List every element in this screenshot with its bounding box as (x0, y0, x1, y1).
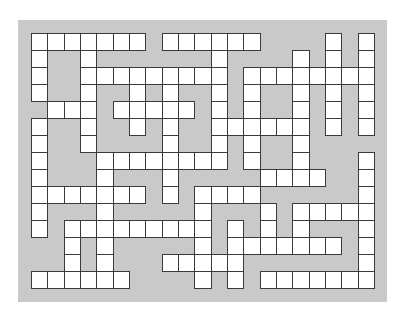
crossword-cell[interactable] (64, 186, 81, 204)
crossword-cell[interactable] (96, 254, 114, 272)
crossword-cell[interactable] (211, 33, 228, 51)
crossword-cell[interactable] (162, 135, 179, 153)
crossword-cell[interactable] (325, 84, 342, 102)
crossword-cell[interactable] (162, 118, 179, 136)
crossword-cell[interactable] (260, 67, 277, 85)
crossword-cell[interactable] (260, 118, 277, 136)
crossword-cell[interactable] (31, 118, 48, 136)
crossword-cell[interactable] (358, 186, 375, 204)
crossword-cell[interactable] (145, 152, 163, 170)
crossword-cell[interactable] (129, 152, 146, 170)
crossword-cell[interactable] (325, 67, 342, 85)
crossword-cell[interactable] (358, 118, 375, 136)
crossword-cell[interactable] (292, 169, 310, 187)
crossword-cell[interactable] (325, 271, 342, 289)
crossword-cell[interactable] (80, 271, 97, 289)
crossword-cell[interactable] (276, 271, 293, 289)
crossword-cell[interactable] (178, 220, 195, 238)
crossword-cell[interactable] (358, 271, 375, 289)
crossword-cell[interactable] (80, 67, 97, 85)
crossword-cell[interactable] (31, 220, 48, 238)
crossword-cell[interactable] (358, 33, 375, 51)
crossword-cell[interactable] (31, 84, 48, 102)
crossword-cell[interactable] (80, 135, 97, 153)
crossword-cell[interactable] (162, 33, 179, 51)
crossword-cell[interactable] (211, 50, 228, 68)
crossword-cell[interactable] (113, 67, 130, 85)
crossword-cell[interactable] (292, 67, 310, 85)
crossword-cell[interactable] (211, 84, 228, 102)
crossword-cell[interactable] (194, 186, 212, 204)
crossword-cell[interactable] (358, 84, 375, 102)
crossword-cell[interactable] (129, 67, 146, 85)
crossword-cell[interactable] (80, 220, 97, 238)
crossword-cell[interactable] (325, 101, 342, 119)
crossword-cell[interactable] (325, 203, 342, 221)
crossword-cell[interactable] (325, 237, 342, 255)
crossword-cell[interactable] (276, 169, 293, 187)
crossword-cell[interactable] (309, 203, 326, 221)
crossword-cell[interactable] (292, 118, 310, 136)
crossword-cell[interactable] (243, 135, 261, 153)
crossword-cell[interactable] (325, 33, 342, 51)
crossword-cell[interactable] (129, 33, 146, 51)
crossword-cell[interactable] (113, 271, 130, 289)
crossword-cell[interactable] (47, 101, 65, 119)
crossword-cell[interactable] (145, 220, 163, 238)
crossword-cell[interactable] (178, 33, 195, 51)
crossword-cell[interactable] (194, 203, 212, 221)
crossword-cell[interactable] (358, 220, 375, 238)
crossword-cell[interactable] (292, 271, 310, 289)
crossword-cell[interactable] (358, 50, 375, 68)
crossword-cell[interactable] (178, 67, 195, 85)
crossword-cell[interactable] (243, 33, 261, 51)
crossword-cell[interactable] (31, 152, 48, 170)
crossword-cell[interactable] (194, 220, 212, 238)
crossword-cell[interactable] (194, 33, 212, 51)
crossword-cell[interactable] (211, 118, 228, 136)
crossword-cell[interactable] (292, 101, 310, 119)
crossword-cell[interactable] (64, 101, 81, 119)
crossword-cell[interactable] (227, 220, 244, 238)
crossword-cell[interactable] (292, 84, 310, 102)
crossword-cell[interactable] (358, 254, 375, 272)
crossword-cell[interactable] (260, 237, 277, 255)
crossword-cell[interactable] (31, 186, 48, 204)
crossword-cell[interactable] (178, 254, 195, 272)
crossword-cell[interactable] (47, 33, 65, 51)
crossword-cell[interactable] (162, 84, 179, 102)
crossword-cell[interactable] (292, 135, 310, 153)
crossword-cell[interactable] (358, 67, 375, 85)
crossword-cell[interactable] (31, 203, 48, 221)
crossword-cell[interactable] (227, 271, 244, 289)
crossword-cell[interactable] (227, 33, 244, 51)
crossword-cell[interactable] (64, 271, 81, 289)
crossword-cell[interactable] (211, 135, 228, 153)
crossword-cell[interactable] (358, 152, 375, 170)
crossword-cell[interactable] (96, 203, 114, 221)
crossword-cell[interactable] (178, 152, 195, 170)
crossword-cell[interactable] (260, 203, 277, 221)
crossword-cell[interactable] (276, 237, 293, 255)
crossword-cell[interactable] (113, 101, 130, 119)
crossword-cell[interactable] (162, 220, 179, 238)
crossword-cell[interactable] (194, 237, 212, 255)
crossword-cell[interactable] (341, 67, 359, 85)
crossword-cell[interactable] (145, 67, 163, 85)
crossword-cell[interactable] (64, 33, 81, 51)
crossword-cell[interactable] (194, 67, 212, 85)
crossword-cell[interactable] (80, 84, 97, 102)
crossword-cell[interactable] (31, 67, 48, 85)
crossword-cell[interactable] (358, 169, 375, 187)
crossword-cell[interactable] (276, 67, 293, 85)
crossword-cell[interactable] (260, 220, 277, 238)
crossword-cell[interactable] (243, 118, 261, 136)
crossword-cell[interactable] (260, 169, 277, 187)
crossword-cell[interactable] (309, 169, 326, 187)
crossword-cell[interactable] (325, 50, 342, 68)
crossword-cell[interactable] (113, 152, 130, 170)
crossword-cell[interactable] (227, 254, 244, 272)
crossword-cell[interactable] (64, 254, 81, 272)
crossword-cell[interactable] (96, 67, 114, 85)
crossword-cell[interactable] (243, 101, 261, 119)
